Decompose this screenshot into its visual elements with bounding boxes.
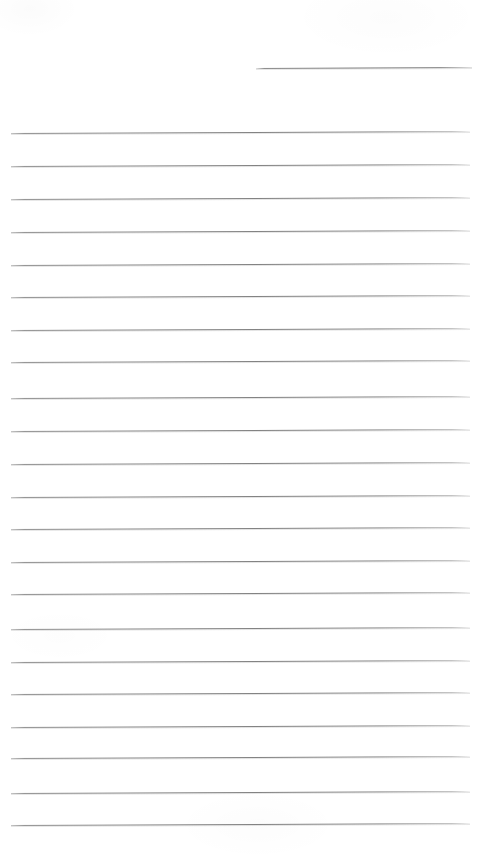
- ruled-line: [11, 295, 470, 298]
- ruled-line: [11, 592, 470, 595]
- ruled-line: [11, 230, 470, 233]
- ruled-line: [11, 328, 470, 331]
- ruled-line: [11, 660, 470, 663]
- ruled-line: [11, 627, 470, 630]
- ruled-line: [11, 396, 470, 399]
- ruled-line: [11, 527, 470, 530]
- header-rule: [256, 67, 472, 69]
- ruled-line: [11, 560, 470, 563]
- ruled-line: [11, 131, 470, 134]
- scanned-page: [0, 0, 495, 859]
- ruled-line: [11, 692, 470, 695]
- ruled-line: [11, 263, 470, 266]
- ruled-line: [11, 360, 470, 363]
- ruled-line: [11, 429, 470, 432]
- ruled-line: [11, 725, 470, 728]
- ruled-line: [11, 495, 470, 498]
- ruled-line: [11, 164, 470, 167]
- ruled-line: [11, 756, 470, 759]
- ruled-line: [11, 462, 470, 465]
- ruled-line: [11, 197, 470, 200]
- ruled-line: [11, 791, 470, 794]
- ruled-line: [11, 823, 470, 826]
